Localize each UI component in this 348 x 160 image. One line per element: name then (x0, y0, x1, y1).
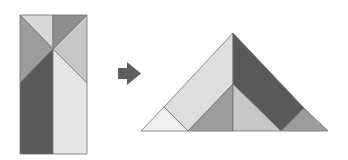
source-rectangle (20, 15, 87, 154)
tangram-diagram (0, 0, 348, 160)
right-arrow-icon (118, 62, 141, 85)
target-triangle (141, 33, 328, 131)
